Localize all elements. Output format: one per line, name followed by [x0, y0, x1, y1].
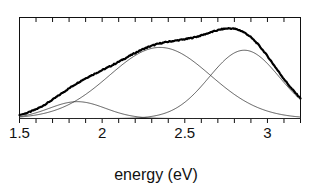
plot-frame — [20, 18, 301, 119]
x-axis-ticks-bottom — [20, 119, 301, 124]
spectrum-chart: 1.522.53 energy (eV) — [0, 0, 313, 192]
x-tick-label: 1.5 — [9, 124, 30, 141]
x-tick-label: 2.5 — [174, 124, 195, 141]
x-axis-title: energy (eV) — [114, 166, 198, 183]
figure-container: 1.522.53 energy (eV) — [0, 0, 313, 192]
x-tick-label: 2 — [98, 124, 106, 141]
x-axis-tick-labels: 1.522.53 — [9, 124, 272, 141]
x-tick-label: 3 — [263, 124, 271, 141]
